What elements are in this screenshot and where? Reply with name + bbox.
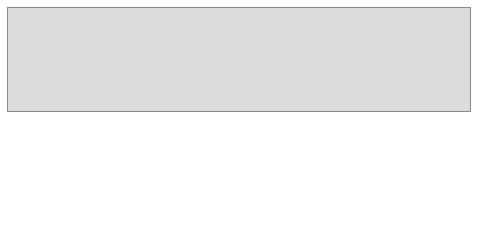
figure-background-panel <box>8 8 231 111</box>
